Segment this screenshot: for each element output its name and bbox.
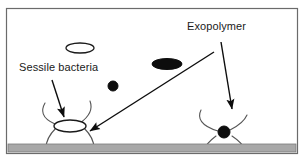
figure-border-frame	[7, 9, 298, 154]
diagram-canvas	[0, 0, 305, 167]
attached-ellipse-open-cell	[54, 120, 86, 132]
biofilm-diagram-figure: Exopolymer Sessile bacteria	[0, 0, 305, 167]
planktonic-ellipse-filled-cell	[152, 59, 182, 70]
surface-substrate-bar	[8, 144, 296, 152]
label-exopolymer: Exopolymer	[187, 21, 246, 32]
planktonic-ellipse-open-cell	[66, 43, 94, 53]
planktonic-coccus-filled-cell	[108, 81, 118, 91]
label-sessile-bacteria: Sessile bacteria	[19, 62, 98, 73]
attached-coccus-filled-cell	[218, 126, 230, 138]
